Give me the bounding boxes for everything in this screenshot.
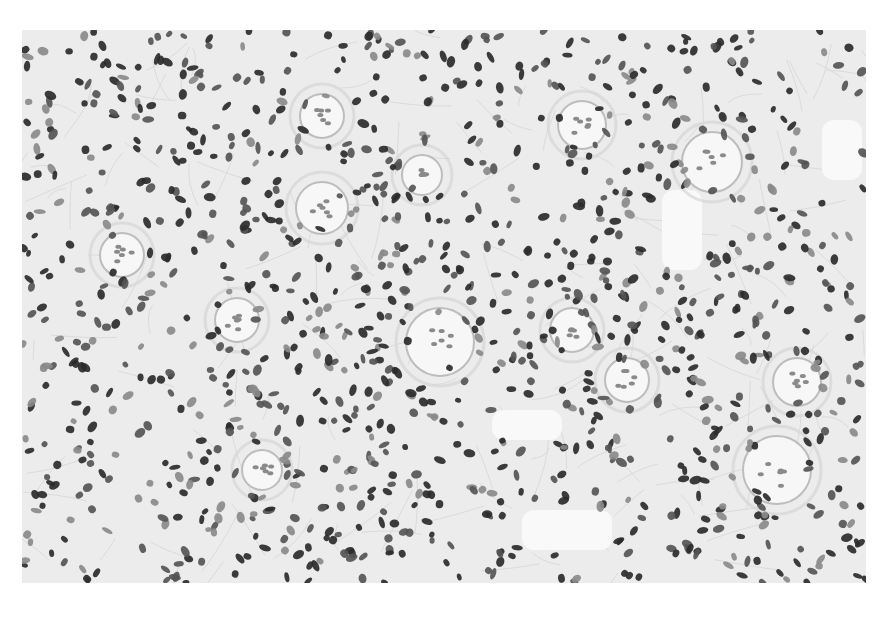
whorl-nucleus: [765, 462, 771, 466]
cell-nucleus: [560, 445, 568, 450]
whorl-nucleus: [129, 251, 135, 255]
whorl-nucleus: [631, 375, 637, 379]
whorl-nucleus: [325, 121, 331, 125]
whorl-nucleus: [573, 335, 579, 339]
whorl-nucleus: [720, 153, 726, 157]
whorl-nucleus: [586, 117, 592, 121]
whorl-nucleus: [419, 168, 425, 172]
whorl-nucleus: [268, 465, 274, 469]
whorl-nucleus: [262, 463, 268, 467]
whorl-nucleus: [317, 113, 323, 117]
whorl-nucleus: [777, 470, 783, 474]
whorl-nucleus: [324, 210, 330, 214]
whorl-nucleus: [429, 328, 435, 332]
whorl-nucleus: [115, 245, 121, 249]
whorl-nucleus: [323, 199, 329, 203]
cell-nucleus: [430, 537, 435, 544]
whorl-nucleus: [803, 380, 809, 384]
whorl-nucleus: [310, 209, 316, 213]
cell-nucleus: [99, 170, 106, 176]
tissue-section: [22, 30, 866, 583]
whorl-nucleus: [267, 471, 273, 475]
whorl-nucleus: [615, 384, 621, 388]
whorl-nucleus: [710, 161, 716, 165]
whorl-nucleus: [114, 250, 120, 254]
whorl-nucleus: [571, 131, 577, 135]
clear-space: [822, 120, 862, 180]
whorl-nucleus: [439, 329, 445, 333]
whorl-nucleus: [234, 318, 240, 322]
whorl-nucleus: [236, 314, 242, 318]
whorl-nucleus: [314, 108, 320, 112]
clear-space: [492, 410, 562, 440]
whorl-nucleus: [320, 118, 326, 122]
cell-nucleus: [755, 268, 760, 275]
whorl-nucleus: [225, 324, 231, 328]
whorl-nucleus: [789, 371, 795, 375]
whorl-nucleus: [758, 472, 764, 476]
whorl-nucleus: [577, 119, 583, 123]
whorl-nucleus: [629, 381, 635, 385]
whorl-nucleus: [621, 385, 627, 389]
cell-nucleus: [745, 153, 755, 159]
whorl-nucleus: [709, 155, 715, 159]
cell-nucleus: [603, 257, 612, 265]
histology-micrograph: [22, 30, 866, 583]
whorl-nucleus: [571, 329, 577, 333]
whorl-nucleus: [446, 344, 452, 348]
clear-space: [662, 190, 702, 270]
cell-nucleus: [482, 510, 493, 518]
whorl-nucleus: [114, 259, 120, 263]
whorl-nucleus: [120, 247, 126, 251]
whorl-nucleus: [431, 342, 437, 346]
whorl-nucleus: [696, 166, 702, 170]
whorl-nucleus: [326, 214, 332, 218]
whorl-nucleus: [778, 484, 784, 488]
whorl-nucleus: [253, 465, 259, 469]
whorl-nucleus: [567, 333, 573, 337]
whorl-nucleus: [621, 369, 627, 373]
whorl-nucleus: [119, 253, 125, 257]
whorl-nucleus: [325, 109, 331, 113]
whorl-nucleus: [792, 381, 798, 385]
clear-space: [522, 510, 612, 550]
cell-nucleus: [390, 519, 400, 527]
whorl-nucleus: [800, 374, 806, 378]
whorl-nucleus: [235, 327, 241, 331]
whorl-nucleus: [584, 125, 590, 129]
whorl-nucleus: [448, 334, 454, 338]
whorl-nucleus: [704, 150, 710, 154]
cell-nucleus: [251, 316, 261, 323]
whorl-nucleus: [439, 338, 445, 342]
whorl-nucleus: [317, 203, 323, 207]
cell-nucleus: [102, 323, 111, 330]
whorl-nucleus: [419, 173, 425, 177]
